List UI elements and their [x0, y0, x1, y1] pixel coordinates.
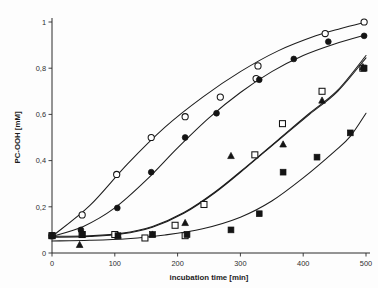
marker-filled-triangles: [319, 97, 326, 103]
data-markers: [49, 19, 368, 248]
y-tick-label: 1: [42, 18, 46, 27]
marker-filled-squares: [280, 169, 286, 175]
marker-filled-circles: [182, 135, 188, 141]
marker-open-circles: [79, 212, 85, 218]
marker-open-squares: [201, 201, 207, 207]
x-tick-label: 300: [234, 259, 246, 268]
marker-open-circles: [182, 114, 188, 120]
x-tick-label: 400: [297, 259, 309, 268]
marker-filled-squares: [314, 154, 320, 160]
marker-open-squares: [319, 88, 325, 94]
marker-open-circles: [217, 94, 223, 100]
marker-filled-circles: [361, 33, 367, 39]
marker-filled-squares: [228, 227, 234, 233]
x-tick-label: 100: [109, 259, 121, 268]
marker-filled-triangles: [228, 152, 235, 158]
y-tick-label: 0,4: [36, 156, 46, 165]
marker-open-squares: [279, 121, 285, 127]
marker-filled-squares: [347, 130, 353, 136]
marker-open-circles: [114, 171, 120, 177]
marker-filled-squares: [49, 233, 55, 239]
marker-filled-squares: [79, 232, 85, 238]
y-tick-label: 0: [42, 249, 46, 258]
marker-filled-squares: [184, 232, 190, 238]
fit-curve-filled-circles: [52, 35, 366, 237]
marker-filled-circles: [291, 56, 297, 62]
x-tick-label: 200: [171, 259, 183, 268]
scatter-plot: 00,20,40,60,810100200300400500incubation…: [0, 0, 378, 288]
fit-curve-filled-squares: [52, 113, 366, 241]
marker-filled-circles: [325, 39, 331, 45]
fit-curves: [52, 22, 366, 241]
marker-open-circles: [361, 19, 367, 25]
y-tick-label: 0,2: [36, 203, 46, 212]
x-tick-label: 0: [50, 259, 54, 268]
y-tick-label: 0,6: [36, 110, 46, 119]
marker-filled-circles: [256, 77, 262, 83]
marker-filled-triangles: [76, 241, 83, 247]
fit-curve-open-squares: [52, 56, 366, 237]
marker-filled-circles: [148, 169, 154, 175]
axis-labels: 00,20,40,60,810100200300400500incubation…: [13, 18, 372, 282]
y-tick-label: 0,8: [36, 64, 46, 73]
marker-open-circles: [148, 134, 154, 140]
y-axis-title: PC-OOH [mM]: [13, 111, 22, 163]
marker-filled-squares: [115, 233, 121, 239]
fit-curve-filled-triangles: [52, 58, 366, 237]
marker-filled-triangles: [280, 141, 287, 147]
x-axis-title: incubation time [min]: [170, 273, 249, 282]
marker-filled-squares: [361, 65, 367, 71]
marker-open-squares: [252, 152, 258, 158]
marker-filled-triangles: [182, 219, 189, 225]
marker-filled-squares: [256, 211, 262, 217]
chart-figure: 00,20,40,60,810100200300400500incubation…: [0, 0, 378, 288]
axes: [49, 18, 371, 257]
marker-open-squares: [172, 222, 178, 228]
fit-curve-open-circles: [52, 22, 366, 236]
marker-filled-circles: [114, 205, 120, 211]
marker-filled-squares: [150, 232, 156, 238]
marker-filled-circles: [214, 110, 220, 116]
marker-open-circles: [255, 63, 261, 69]
x-tick-label: 500: [360, 259, 372, 268]
marker-open-circles: [322, 30, 328, 36]
marker-open-squares: [142, 235, 148, 241]
